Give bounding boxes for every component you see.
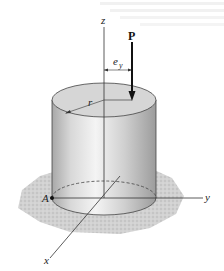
- radius-label: r: [88, 96, 93, 108]
- eccentricity-label: e: [113, 55, 118, 67]
- z-axis-label: z: [100, 14, 106, 26]
- x-axis-label: x: [43, 254, 49, 266]
- cylinder-eccentric-load-diagram: z P e y r A y x: [0, 0, 224, 271]
- point-a-label: A: [41, 192, 49, 204]
- point-a-marker: [50, 196, 54, 200]
- load-label: P: [128, 29, 135, 43]
- eccentricity-subscript: y: [118, 61, 123, 70]
- y-axis-label: y: [204, 191, 210, 203]
- bleed-through-text: [100, 2, 224, 26]
- diagram-canvas: z P e y r A y x: [0, 0, 224, 271]
- ecc-arrowhead-left: [104, 69, 108, 72]
